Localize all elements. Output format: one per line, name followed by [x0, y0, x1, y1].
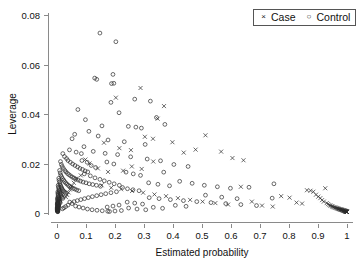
legend-label-case: Case [271, 12, 296, 23]
data-point-case [239, 185, 243, 189]
data-point-control [112, 182, 116, 186]
data-point-control [95, 183, 99, 187]
data-point-control [178, 179, 182, 183]
data-point-control [68, 148, 72, 152]
data-point-control [168, 198, 172, 202]
data-point-control [143, 143, 147, 147]
data-point-control [270, 196, 274, 200]
data-point-control [184, 204, 188, 208]
data-point-control [144, 208, 148, 212]
data-point-control [105, 160, 109, 164]
data-point-case [140, 167, 144, 171]
data-point-control [139, 173, 143, 177]
data-point-control [151, 205, 155, 209]
data-point-case [141, 191, 145, 195]
legend-label-control: Control [317, 12, 351, 23]
data-point-control [229, 186, 233, 190]
data-point-case [194, 148, 198, 152]
data-point-case [106, 170, 110, 174]
data-point-control [162, 170, 166, 174]
data-point-control [83, 197, 87, 201]
data-point-case [130, 189, 134, 193]
data-point-control [88, 174, 92, 178]
data-point-control [209, 201, 213, 205]
data-point-control [159, 159, 163, 163]
legend-entry-control: ○ Control [305, 12, 351, 23]
data-point-control [113, 209, 117, 213]
data-point-control [81, 206, 85, 210]
data-point-control [111, 204, 115, 208]
chart-legend: × Case ○ Control [253, 9, 356, 26]
data-point-control [93, 176, 97, 180]
data-point-control [76, 178, 80, 182]
data-point-case [143, 135, 147, 139]
data-point-case [295, 201, 299, 205]
data-point-control [115, 190, 119, 194]
data-point-case [250, 200, 254, 204]
data-point-control [109, 100, 113, 104]
data-point-control [79, 152, 83, 156]
data-point-control [107, 180, 111, 184]
data-point-control [202, 183, 206, 187]
data-point-control [99, 193, 103, 197]
circle-marker-icon: ○ [305, 13, 314, 21]
data-point-control [114, 40, 118, 44]
data-point-control [77, 205, 81, 209]
data-point-case [176, 196, 180, 200]
data-point-control [117, 203, 121, 207]
data-point-control [126, 187, 130, 191]
data-point-control [90, 195, 94, 199]
data-point-control [195, 200, 199, 204]
data-point-case [139, 86, 143, 90]
data-point-case [151, 137, 155, 141]
data-point-control [96, 134, 100, 138]
data-point-control [91, 183, 95, 187]
data-point-case [316, 195, 320, 199]
data-point-case [241, 158, 245, 162]
data-point-control [100, 124, 104, 128]
data-point-control [135, 207, 139, 211]
data-point-control [106, 138, 110, 142]
data-point-control [235, 197, 239, 201]
data-point-control [76, 108, 80, 112]
scatter-chart: 00.020.040.060.08 00.10.20.30.40.50.60.7… [0, 0, 359, 265]
data-point-control [102, 179, 106, 183]
data-point-case [109, 186, 113, 190]
data-point-control [91, 149, 95, 153]
data-point-control [122, 140, 126, 144]
data-point-control [141, 202, 145, 206]
data-point-control [148, 99, 152, 103]
data-point-control [119, 209, 123, 213]
data-point-case [129, 148, 133, 152]
data-point-case [308, 189, 312, 193]
data-point-control [95, 208, 99, 212]
data-point-case [114, 96, 118, 100]
data-point-case [164, 194, 168, 198]
data-point-control [105, 205, 109, 209]
data-point-control [134, 125, 138, 129]
data-point-control [255, 204, 259, 208]
data-point-control [100, 209, 104, 213]
data-point-case [271, 205, 275, 209]
data-point-control [163, 123, 167, 127]
data-point-control [137, 189, 141, 193]
data-point-control [86, 196, 90, 200]
plot-area [0, 0, 359, 265]
data-point-control [139, 126, 143, 130]
data-point-control [156, 182, 160, 186]
data-point-control [104, 192, 108, 196]
data-point-case [203, 133, 207, 137]
data-point-control [145, 157, 149, 161]
data-point-control [147, 181, 151, 185]
data-point-case [130, 164, 134, 168]
data-point-case [182, 151, 186, 155]
data-point-control [74, 150, 78, 154]
data-point-control [80, 159, 84, 163]
data-point-case [102, 141, 106, 145]
data-point-case [72, 181, 76, 185]
data-point-control [112, 162, 116, 166]
data-point-control [103, 151, 107, 155]
data-point-control [220, 195, 224, 199]
data-point-control [182, 199, 186, 203]
data-point-control [126, 124, 130, 128]
